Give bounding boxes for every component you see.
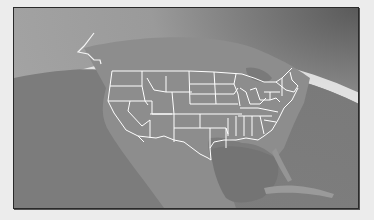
globe-map bbox=[14, 8, 358, 208]
map-frame bbox=[13, 7, 359, 209]
